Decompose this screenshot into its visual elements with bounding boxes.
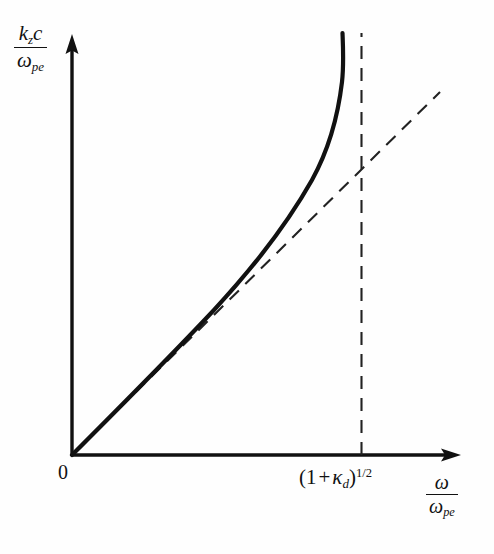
y-axis-label: kzc ωpe xyxy=(14,22,47,74)
tick-one: 1 xyxy=(306,465,317,489)
wavenumber-symbol: k xyxy=(19,21,28,45)
x-axis-label: ω ωpe xyxy=(426,472,458,519)
plasma-frequency-symbol: ω xyxy=(17,48,32,72)
speed-of-light-symbol: c xyxy=(33,21,42,45)
frequency-symbol: ω xyxy=(435,471,449,493)
plot-canvas xyxy=(0,0,494,554)
plasma-frequency-subscript: pe xyxy=(32,59,44,74)
x-axis-label-denominator: ωpe xyxy=(426,495,458,519)
axes-group xyxy=(66,34,462,462)
tick-plus: + xyxy=(317,465,333,489)
kappa-symbol: κ xyxy=(332,465,342,489)
y-axis-label-denominator: ωpe xyxy=(14,48,47,73)
figure-root: kzc ωpe ω ωpe (1+κd)1/2 0 xyxy=(0,0,494,554)
tick-open-paren: ( xyxy=(299,465,306,489)
plasma-frequency-symbol-x: ω xyxy=(429,495,443,517)
x-axis-label-fraction: ω ωpe xyxy=(426,472,458,519)
dispersion-curve xyxy=(72,33,343,455)
plasma-frequency-subscript-x: pe xyxy=(443,505,455,519)
tick-close-paren: ) xyxy=(349,465,356,489)
tick-exponent: 1/2 xyxy=(356,466,372,480)
x-tick-label-resonance: (1+κd)1/2 xyxy=(299,466,372,490)
y-axis-label-numerator: kzc xyxy=(14,22,47,48)
y-axis-label-fraction: kzc ωpe xyxy=(14,22,47,74)
x-axis-label-numerator: ω xyxy=(426,472,458,495)
origin-label: 0 xyxy=(58,462,68,483)
